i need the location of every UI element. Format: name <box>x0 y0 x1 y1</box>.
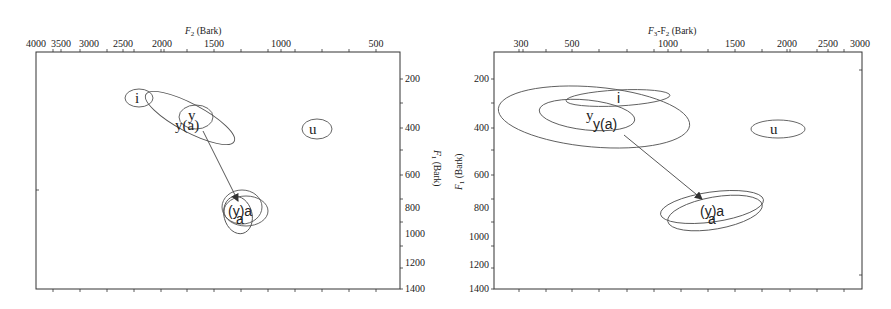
ellipse-u <box>302 119 332 139</box>
vowel-label-y-a: y(a) <box>175 117 199 134</box>
left-chart: F2 (Bark) 4000 3500 3000 2500 2000 1500 … <box>26 26 442 294</box>
right-y-tick: 1400 <box>469 283 489 294</box>
right-plot-frame <box>494 52 862 289</box>
right-y-tick-labels: 200 400 600 800 1000 1200 1400 <box>469 73 489 294</box>
vowel-label-y-a: y(a) <box>593 116 617 132</box>
left-y-axis-title: F1 (Bark) <box>430 149 442 186</box>
left-y-tick: 600 <box>405 169 420 180</box>
left-y-tick: 200 <box>405 73 420 84</box>
right-x-tick: 2500 <box>818 38 838 49</box>
vowel-label-i: i <box>617 90 620 106</box>
vowel-label-u: u <box>770 121 778 137</box>
left-x-tick: 3500 <box>51 38 71 49</box>
left-y-tick: 1200 <box>405 257 425 268</box>
right-x-tick: 2000 <box>777 38 797 49</box>
left-plot-frame <box>36 52 400 289</box>
left-x-tick: 500 <box>369 38 384 49</box>
left-y-tick-labels: 200 400 600 800 1000 1200 1400 <box>405 73 425 294</box>
right-x-tick: 1000 <box>658 38 678 49</box>
left-y-tick: 1000 <box>405 228 425 239</box>
left-trajectory-arrow <box>203 131 238 201</box>
right-y-tick: 1200 <box>469 259 489 270</box>
right-x-tick-labels: 300 500 1000 1500 2000 2500 3000 <box>514 38 871 49</box>
left-x-tick-labels: 4000 3500 3000 2500 2000 1500 1000 500 <box>26 38 384 49</box>
left-x-tick: 2500 <box>113 38 133 49</box>
vowel-label-a: a <box>236 211 244 227</box>
left-y-ticks <box>36 79 403 289</box>
vowel-label-u: u <box>309 121 317 137</box>
left-y-tick: 800 <box>405 202 420 213</box>
right-x-tick: 1500 <box>725 38 745 49</box>
right-trajectory-arrow <box>624 135 702 199</box>
right-y-tick: 800 <box>474 202 489 213</box>
right-x-tick: 500 <box>565 38 580 49</box>
right-y-tick: 200 <box>474 73 489 84</box>
right-x-tick: 3000 <box>850 38 870 49</box>
vowel-label-a: a <box>708 211 716 227</box>
left-x-tick: 2000 <box>152 38 172 49</box>
right-ellipses <box>496 79 805 237</box>
right-x-axis-title: F3-F2 (Bark) <box>647 26 696 38</box>
vowel-label-i: i <box>135 90 139 106</box>
left-x-tick: 1500 <box>204 38 224 49</box>
right-y-tick: 400 <box>474 122 489 133</box>
left-x-tick: 1000 <box>271 38 291 49</box>
left-x-axis-title: F2 (Bark) <box>184 26 221 38</box>
left-y-tick: 400 <box>405 122 420 133</box>
right-y-tick: 600 <box>474 169 489 180</box>
right-y-tick: 1000 <box>469 231 489 242</box>
left-x-tick: 3000 <box>79 38 99 49</box>
ellipse-u <box>751 120 805 138</box>
left-x-tick: 4000 <box>26 38 46 49</box>
right-y-axis-title: F1 (Bark) <box>454 154 466 191</box>
right-x-tick: 300 <box>514 38 529 49</box>
figure: F2 (Bark) 4000 3500 3000 2500 2000 1500 … <box>0 0 891 309</box>
left-x-ticks <box>53 49 376 292</box>
left-y-tick: 1400 <box>405 283 425 294</box>
right-chart: F3-F2 (Bark) 300 500 1000 1500 2000 2500… <box>454 26 870 294</box>
